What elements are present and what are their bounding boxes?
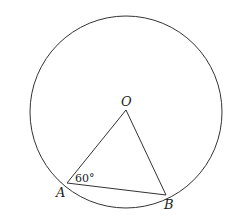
label-B: B: [163, 197, 174, 212]
segment-OB: [126, 110, 166, 195]
circle-diagram: O A B 60°: [0, 0, 237, 223]
label-A: A: [55, 185, 65, 200]
angle-label-A: 60°: [75, 172, 95, 185]
circle: [30, 16, 222, 208]
label-O: O: [121, 94, 132, 109]
